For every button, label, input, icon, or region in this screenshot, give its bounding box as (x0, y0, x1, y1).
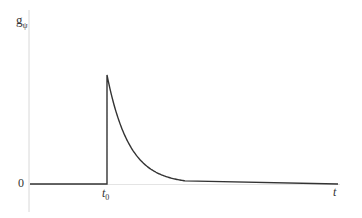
series-line (30, 75, 338, 184)
y-tick-zero: 0 (18, 176, 24, 191)
y-axis-label: gψ (16, 12, 28, 30)
x-axis-label: t (333, 185, 336, 200)
chart-canvas (0, 0, 362, 218)
x-tick-t0: t0 (102, 186, 109, 202)
